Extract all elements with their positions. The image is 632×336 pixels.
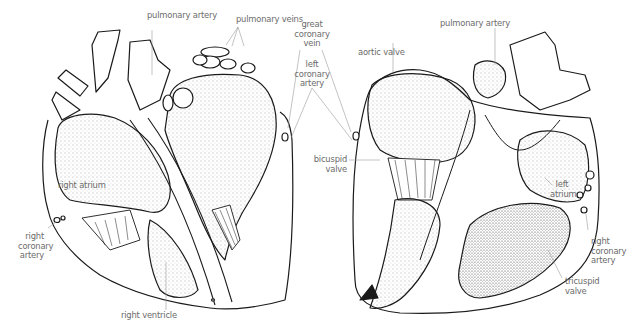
- label-line: artery: [18, 251, 44, 261]
- label-great-coronary-vein: great coronary vein: [290, 20, 334, 49]
- label-line: vein: [290, 39, 334, 49]
- label-tricuspid-valve: tricuspid valve: [565, 277, 600, 296]
- label-right-ventricle: right ventricle: [121, 311, 177, 321]
- aortic-valve-chamber: [368, 74, 475, 163]
- label-left-coronary-artery: left coronary artery: [290, 60, 334, 89]
- heart-diagram: pulmonary artery pulmonary veins right a…: [0, 0, 632, 336]
- label-line: valve: [565, 287, 600, 297]
- label-aortic-valve: aortic valve: [358, 48, 405, 58]
- label-pulmonary-artery-left: pulmonary artery: [147, 11, 217, 21]
- label-pulmonary-artery-right: pulmonary artery: [440, 19, 510, 29]
- label-right-coronary-artery-right: right coronary artery: [591, 237, 626, 266]
- label-right-coronary-artery-left: right coronary artery: [18, 232, 44, 261]
- right-heart-view: [353, 32, 599, 313]
- label-bicuspid-valve: bicuspid valve: [305, 155, 347, 174]
- label-right-atrium: right atrium: [58, 181, 106, 191]
- label-line: valve: [305, 165, 347, 175]
- label-line: artery: [591, 256, 626, 266]
- label-line: artery: [290, 79, 334, 89]
- label-left-atrium: left atrium: [550, 180, 574, 199]
- left-heart-view: [43, 30, 293, 309]
- label-line: atrium: [550, 190, 574, 200]
